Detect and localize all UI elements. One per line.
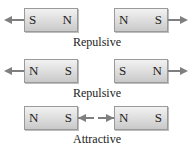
magnet-pole: S bbox=[119, 63, 126, 79]
bar-magnet-left: N S bbox=[24, 59, 78, 83]
magnet-pole: N bbox=[119, 12, 128, 28]
force-arrow-inward-right-icon bbox=[78, 113, 94, 123]
magnet-pole: S bbox=[65, 63, 72, 79]
force-arrow-right-icon bbox=[168, 15, 188, 25]
magnet-pole: S bbox=[65, 110, 72, 126]
magnet-pole: N bbox=[29, 63, 38, 79]
bar-magnet-right: N S bbox=[114, 106, 168, 130]
force-arrow-left-icon bbox=[4, 15, 24, 25]
interaction-label: Repulsive bbox=[0, 87, 194, 100]
magnet-pole: S bbox=[155, 12, 162, 28]
bar-magnet-right: S N bbox=[114, 59, 168, 83]
magnet-pole: N bbox=[119, 110, 128, 126]
interaction-label: Attractive bbox=[0, 133, 194, 146]
magnet-pole: N bbox=[153, 63, 162, 79]
magnet-pole: N bbox=[29, 110, 38, 126]
force-arrow-left-icon bbox=[4, 66, 24, 76]
force-arrow-right-icon bbox=[168, 66, 188, 76]
magnet-pole: S bbox=[155, 110, 162, 126]
magnet-pole: N bbox=[63, 12, 72, 28]
magnet-pole: S bbox=[29, 12, 36, 28]
force-arrow-inward-left-icon bbox=[98, 113, 114, 123]
interaction-label: Repulsive bbox=[0, 36, 194, 49]
bar-magnet-right: N S bbox=[114, 8, 168, 32]
bar-magnet-left: N S bbox=[24, 106, 78, 130]
bar-magnet-left: S N bbox=[24, 8, 78, 32]
